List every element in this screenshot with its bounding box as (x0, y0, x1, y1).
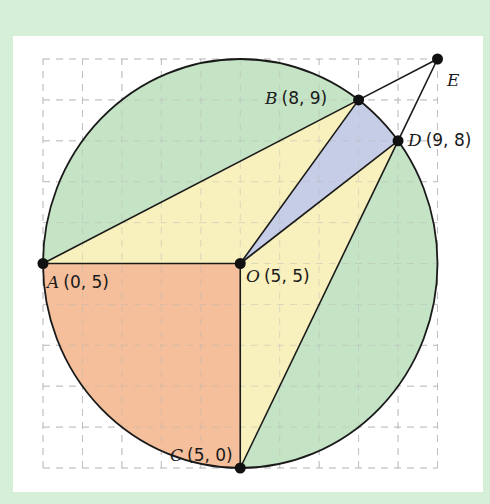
point-e-name: E (447, 70, 459, 90)
label-point-o: O(5, 5) (246, 268, 310, 285)
point-c-coords: (5, 0) (187, 445, 233, 465)
point-d-coords: (9, 8) (426, 130, 472, 150)
point-b-name: B (265, 88, 278, 108)
segment-be (359, 59, 438, 100)
segment-de (398, 59, 437, 141)
point-c-name: C (170, 445, 183, 465)
point-a-coords: (0, 5) (63, 272, 109, 292)
point-o-name: O (246, 266, 260, 286)
point-d-dot (393, 135, 404, 146)
point-d-name: D (408, 130, 422, 150)
point-c-dot (235, 463, 246, 474)
point-a-dot (38, 258, 49, 269)
label-point-e: E (447, 72, 459, 89)
geometry-figure (0, 0, 490, 504)
label-point-d: D(9, 8) (408, 132, 471, 149)
point-o-coords: (5, 5) (264, 266, 310, 286)
point-a-name: A (47, 272, 59, 292)
point-e-dot (432, 54, 443, 65)
point-o-dot (235, 258, 246, 269)
point-b-coords: (8, 9) (282, 88, 328, 108)
label-point-b: B(8, 9) (265, 90, 327, 107)
point-b-dot (353, 94, 364, 105)
label-point-c: C(5, 0) (170, 447, 233, 464)
orange-quarter-sector-aoc (43, 264, 240, 469)
label-point-a: A(0, 5) (47, 274, 109, 291)
